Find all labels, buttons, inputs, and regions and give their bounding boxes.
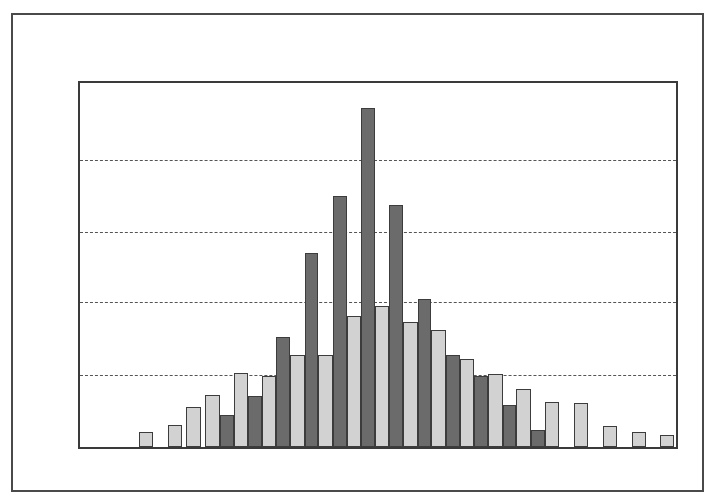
bar-22-dark bbox=[474, 376, 488, 447]
bar-2-light bbox=[186, 407, 201, 447]
bar-29-light bbox=[603, 426, 618, 447]
bar-27-light bbox=[545, 402, 560, 447]
bar-4-dark bbox=[220, 415, 234, 448]
bar-8-dark bbox=[276, 337, 290, 447]
figure-outer-border bbox=[11, 13, 704, 492]
bar-chart-plot-area bbox=[78, 81, 678, 449]
bar-12-dark bbox=[333, 196, 347, 447]
bar-20-dark bbox=[446, 355, 460, 447]
bar-23-light bbox=[488, 374, 503, 448]
bar-14-dark bbox=[361, 108, 375, 447]
bar-26-dark bbox=[531, 430, 545, 447]
bar-11-light bbox=[318, 355, 333, 447]
bar-9-light bbox=[290, 355, 305, 447]
bar-6-dark bbox=[248, 396, 262, 447]
bar-series-layer bbox=[80, 83, 676, 447]
bar-0-light bbox=[139, 432, 153, 447]
bar-31-light bbox=[660, 435, 675, 447]
figure-root bbox=[0, 0, 715, 504]
bar-16-dark bbox=[389, 205, 403, 447]
bar-24-dark bbox=[503, 405, 517, 447]
bar-17-light bbox=[403, 322, 418, 447]
bar-21-light bbox=[460, 359, 475, 447]
bar-10-dark bbox=[305, 253, 319, 447]
bar-19-light bbox=[431, 330, 446, 447]
bar-15-light bbox=[375, 306, 390, 447]
bar-25-light bbox=[516, 389, 531, 447]
bar-18-dark bbox=[418, 299, 432, 447]
bar-7-light bbox=[262, 376, 277, 447]
bar-28-light bbox=[574, 403, 589, 447]
bar-13-light bbox=[347, 316, 362, 447]
bar-30-light bbox=[632, 432, 647, 447]
bar-5-light bbox=[234, 373, 249, 447]
bar-3-light bbox=[205, 395, 220, 447]
bar-1-light bbox=[168, 425, 182, 447]
